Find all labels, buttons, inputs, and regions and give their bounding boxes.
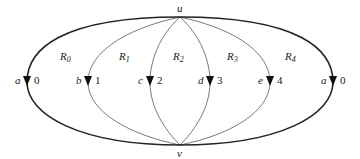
arrow-down-icon	[146, 76, 154, 86]
vertex-v-label: v	[177, 147, 182, 159]
edge-a-left-value: 0	[34, 74, 40, 86]
arrow-down-icon	[84, 76, 92, 86]
edge-a-right-value: 0	[340, 74, 346, 86]
edge-e	[180, 17, 270, 145]
edge-b-value: 1	[95, 74, 101, 86]
edge-c	[150, 17, 180, 145]
region-label-1: R1	[118, 50, 130, 64]
region-label-0: R0	[59, 50, 71, 64]
edge-b	[88, 17, 180, 145]
edge-c-name: c	[138, 74, 143, 86]
edge-a-left-name: a	[15, 74, 21, 86]
arrow-down-icon	[23, 76, 31, 86]
region-label-3: R3	[226, 50, 238, 64]
edge-e-name: e	[258, 74, 263, 86]
region-label-2: R2	[172, 50, 184, 64]
vertex-u-label: u	[177, 2, 183, 14]
region-label-4: R4	[284, 50, 296, 64]
edge-d	[180, 17, 210, 145]
arrow-down-icon	[329, 76, 337, 86]
edge-e-value: 4	[277, 74, 283, 86]
graph-canvas: u v R0 R1 R2 R3 R4 a 0 b 1 c 2 d 3 e 4 a…	[0, 0, 360, 159]
edge-d-name: d	[198, 74, 204, 86]
edge-d-value: 3	[217, 74, 223, 86]
edge-a-right-name: a	[321, 74, 327, 86]
edge-b-name: b	[76, 74, 82, 86]
arrow-down-icon	[206, 76, 214, 86]
edge-c-value: 2	[157, 74, 163, 86]
arrow-down-icon	[266, 76, 274, 86]
diagram: u v R0 R1 R2 R3 R4 a 0 b 1 c 2 d 3 e 4 a…	[0, 0, 360, 159]
